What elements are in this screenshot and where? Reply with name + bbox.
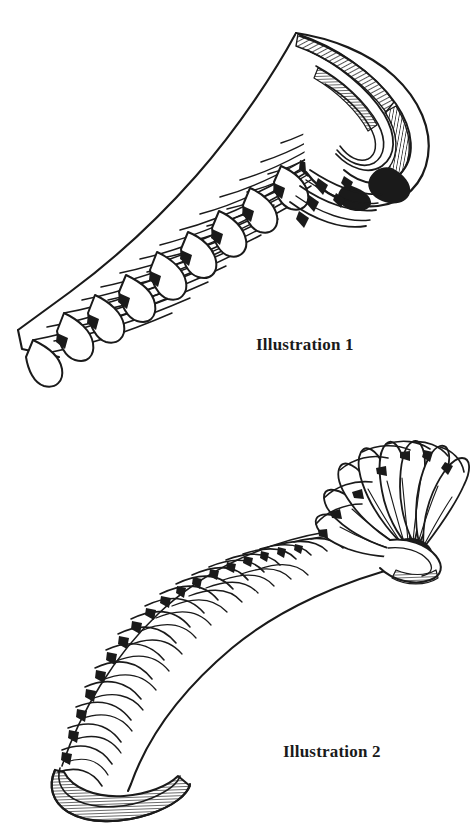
illustration-plate: Illustration 1 Illustration 2 [0, 0, 473, 832]
caption-illustration-2: Illustration 2 [283, 743, 381, 760]
figure-2-artwork [52, 441, 469, 821]
caption-illustration-1: Illustration 1 [256, 336, 354, 353]
figure-1-artwork [18, 33, 429, 387]
plate-artwork [0, 0, 473, 832]
figure-1-rolled-end [290, 33, 429, 228]
